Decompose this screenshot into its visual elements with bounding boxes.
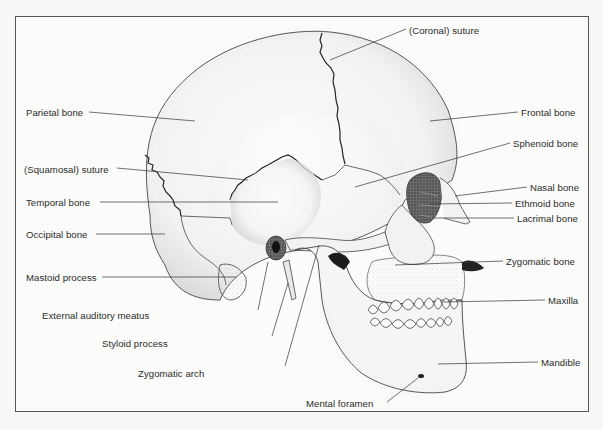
label-occipital-bone: Occipital bone bbox=[26, 229, 88, 240]
label-temporal-bone: Temporal bone bbox=[26, 197, 90, 208]
label-maxilla: Maxilla bbox=[548, 295, 578, 306]
label-sphenoid-bone: Sphenoid bone bbox=[513, 138, 578, 149]
label-mastoid-process: Mastoid process bbox=[26, 272, 97, 283]
label-zygomatic-bone: Zygomatic bone bbox=[506, 256, 575, 267]
label-coronal-suture: (Coronal) suture bbox=[409, 25, 479, 36]
label-frontal-bone: Frontal bone bbox=[521, 107, 575, 118]
nasal-bone-shape bbox=[440, 178, 470, 224]
label-zygomatic-arch: Zygomatic arch bbox=[138, 368, 204, 379]
skull-illustration bbox=[0, 0, 603, 429]
label-mental-foramen: Mental foramen bbox=[306, 398, 373, 409]
label-nasal-bone: Nasal bone bbox=[530, 182, 579, 193]
label-parietal-bone: Parietal bone bbox=[26, 107, 83, 118]
label-squamosal-suture: (Squamosal) suture bbox=[24, 164, 109, 175]
label-ethmoid-bone: Ethmoid bone bbox=[515, 198, 575, 209]
mental-foramen-shape bbox=[418, 374, 424, 378]
label-mandible: Mandible bbox=[541, 357, 580, 368]
label-styloid-process: Styloid process bbox=[102, 338, 168, 349]
label-external-auditory-meatus: External auditory meatus bbox=[42, 310, 149, 321]
label-lacrimal-bone: Lacrimal bone bbox=[517, 213, 578, 224]
